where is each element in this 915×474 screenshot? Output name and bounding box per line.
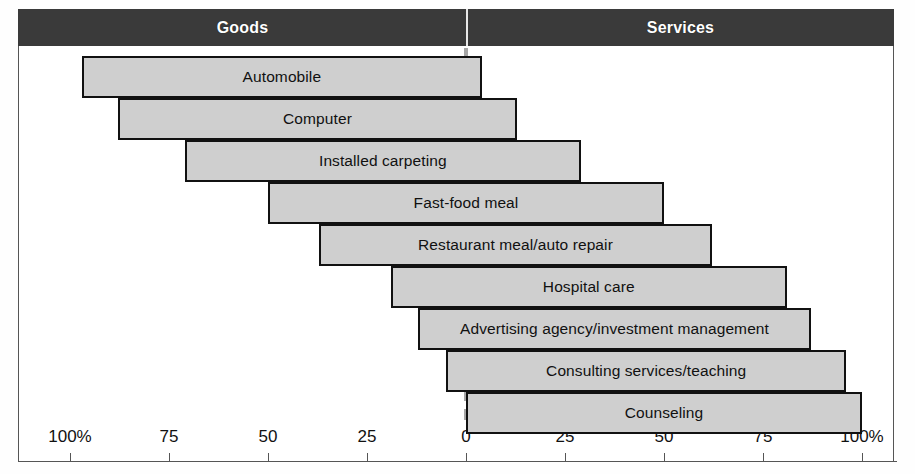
bar-consulting-services-teaching[interactable]: Consulting services/teaching [446,350,846,392]
bar-computer[interactable]: Computer [118,98,518,140]
axis-tick [565,453,566,461]
header-divider [466,9,468,46]
axis-tick [466,453,467,461]
bar-label: Advertising agency/investment management [460,320,769,338]
header-label-services: Services [647,19,714,37]
axis-tick [367,453,368,461]
bar-label: Computer [283,110,352,128]
axis-tick-label: 100% [48,427,91,447]
bar-label: Fast-food meal [414,194,519,212]
axis-tick [169,453,170,461]
axis-tick [268,453,269,461]
axis-tick [763,453,764,461]
axis-tick-label: 75 [160,427,179,447]
axis-tick [70,453,71,461]
x-axis: 100%7550250255075100% [18,461,897,474]
bar-advertising-agency-investment-management[interactable]: Advertising agency/investment management [418,308,810,350]
header-half-services: Services [467,9,894,46]
bar-counseling[interactable]: Counseling [466,392,862,434]
axis-tick-label: 50 [259,427,278,447]
header-label-goods: Goods [217,19,269,37]
bar-automobile[interactable]: Automobile [82,56,482,98]
chart-header-band: Goods Services [18,9,894,46]
axis-tick [664,453,665,461]
bar-installed-carpeting[interactable]: Installed carpeting [185,140,581,182]
bar-fast-food-meal[interactable]: Fast-food meal [268,182,664,224]
bar-label: Consulting services/teaching [546,362,746,380]
bar-label: Hospital care [543,278,635,296]
bar-label: Restaurant meal/auto repair [418,236,613,254]
bar-label: Automobile [243,68,322,86]
axis-tick [862,453,863,461]
bar-label: Installed carpeting [319,152,447,170]
bar-label: Counseling [625,404,704,422]
axis-line [18,461,897,462]
chart-figure: Goods Services AutomobileComputerInstall… [0,0,915,474]
bar-hospital-care[interactable]: Hospital care [391,266,787,308]
axis-tick-label: 25 [358,427,377,447]
header-half-goods: Goods [18,9,467,46]
bar-restaurant-meal-auto-repair[interactable]: Restaurant meal/auto repair [319,224,711,266]
